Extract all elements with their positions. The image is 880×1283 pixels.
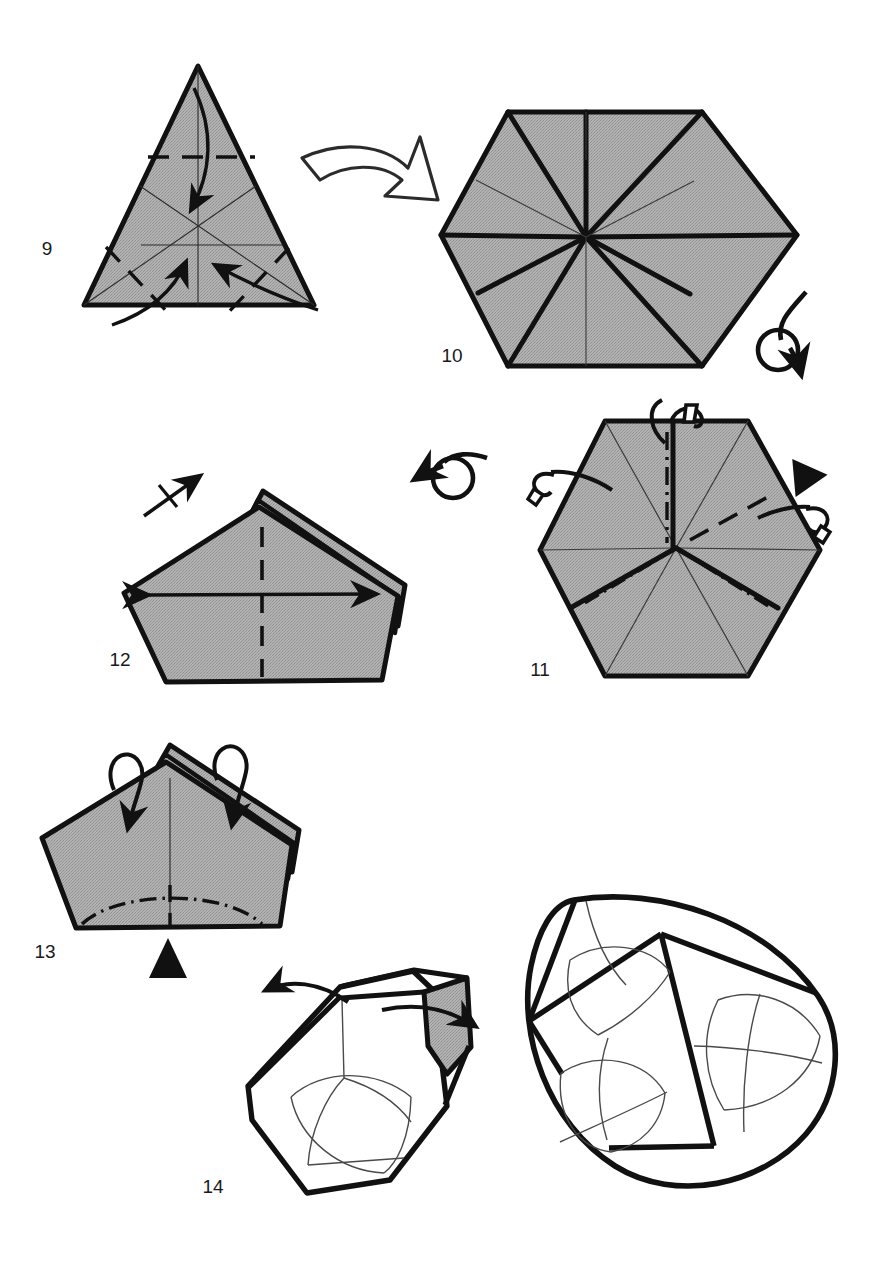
step-10-label: 10	[441, 345, 462, 366]
step-9-label: 9	[42, 238, 53, 259]
origami-diagram-canvas: 9 10	[0, 0, 880, 1283]
step-12-label: 12	[109, 649, 130, 670]
step-14-label: 14	[202, 1176, 224, 1197]
step-12-double-headed-arrow	[148, 594, 376, 595]
step-11-label: 11	[530, 659, 550, 680]
step-13-label: 13	[34, 941, 55, 962]
origami-diagram-page: 9 10	[0, 0, 880, 1283]
